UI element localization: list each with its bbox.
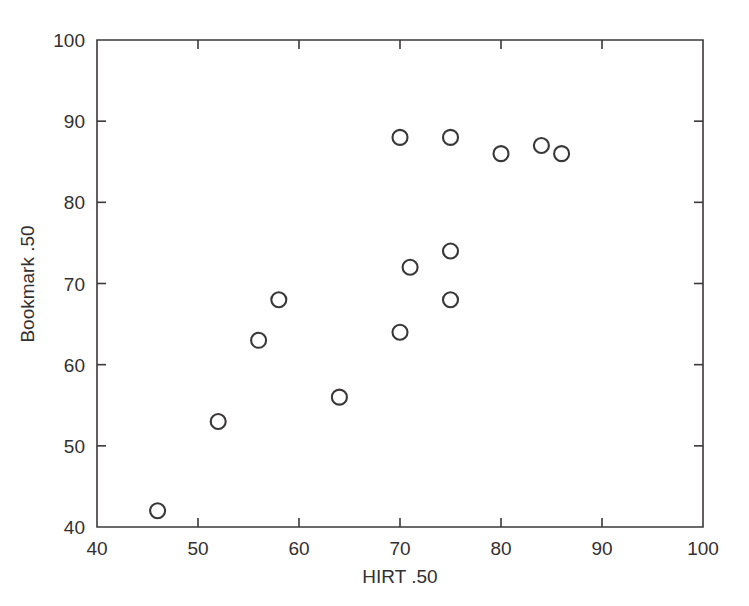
x-tick-label: 100 xyxy=(687,538,719,559)
data-point xyxy=(393,130,408,145)
y-tick-label: 100 xyxy=(53,30,85,51)
y-tick-label: 40 xyxy=(64,517,85,538)
y-axis-ticks xyxy=(97,121,703,446)
y-tick-label: 60 xyxy=(64,355,85,376)
y-tick-label: 90 xyxy=(64,111,85,132)
data-point xyxy=(443,244,458,259)
plot-border xyxy=(97,40,703,527)
data-point-group xyxy=(150,130,569,518)
y-tick-label: 70 xyxy=(64,274,85,295)
y-tick-label: 80 xyxy=(64,192,85,213)
data-point xyxy=(403,260,418,275)
y-axis-tick-labels: 405060708090100 xyxy=(53,30,85,538)
data-point xyxy=(393,325,408,340)
x-axis-title: HIRT .50 xyxy=(362,566,437,587)
data-point xyxy=(443,292,458,307)
x-tick-label: 90 xyxy=(591,538,612,559)
data-point xyxy=(554,146,569,161)
y-axis-title: Bookmark .50 xyxy=(17,225,38,342)
data-point xyxy=(211,414,226,429)
x-tick-label: 50 xyxy=(187,538,208,559)
data-point xyxy=(150,503,165,518)
x-tick-label: 40 xyxy=(86,538,107,559)
scatter-plot-figure: 405060708090100 405060708090100 HIRT .50… xyxy=(0,0,749,606)
axis-frame xyxy=(97,40,703,527)
data-point xyxy=(332,390,347,405)
x-tick-label: 70 xyxy=(389,538,410,559)
y-tick-label: 50 xyxy=(64,436,85,457)
data-point xyxy=(251,333,266,348)
x-axis-tick-labels: 405060708090100 xyxy=(86,538,718,559)
x-tick-label: 60 xyxy=(288,538,309,559)
data-point xyxy=(534,138,549,153)
plot-canvas: 405060708090100 405060708090100 HIRT .50… xyxy=(0,0,749,606)
data-point xyxy=(443,130,458,145)
data-point xyxy=(494,146,509,161)
data-point xyxy=(271,292,286,307)
x-axis-ticks xyxy=(198,40,602,527)
x-tick-label: 80 xyxy=(490,538,511,559)
